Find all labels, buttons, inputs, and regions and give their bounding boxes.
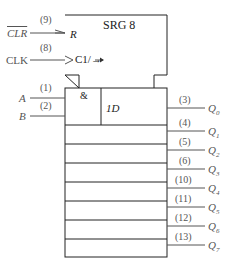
pin-q6: (12)	[175, 212, 192, 223]
output-q4: Q4	[208, 182, 219, 197]
pin-q7: (13)	[175, 231, 192, 242]
pin-a: (1)	[40, 82, 52, 93]
pin-q1: (4)	[179, 117, 191, 128]
output-q7: Q7	[208, 239, 219, 254]
output-q1: Q1	[208, 125, 219, 140]
data-input-label: 1D	[106, 102, 119, 114]
pin-q4: (10)	[175, 174, 192, 185]
pin-q0: (3)	[179, 94, 191, 105]
and-symbol: &	[80, 90, 88, 101]
input-clk: CLK	[6, 54, 28, 66]
reset-label: R	[70, 28, 77, 40]
input-b: B	[19, 110, 26, 122]
output-q0: Q0	[208, 102, 219, 117]
pin-b: (2)	[40, 100, 52, 111]
pin-q3: (6)	[179, 155, 191, 166]
output-q2: Q2	[208, 144, 219, 159]
register-title: SRG 8	[103, 18, 135, 33]
input-clr: CLR	[7, 27, 27, 39]
output-q3: Q3	[208, 163, 219, 178]
output-q5: Q5	[208, 201, 219, 216]
shift-register-diagram	[0, 0, 229, 265]
output-q6: Q6	[208, 220, 219, 235]
pin-clr: (9)	[40, 14, 52, 25]
inversion-triangle	[55, 30, 65, 33]
clock-triangle	[65, 56, 73, 64]
pin-clk: (8)	[40, 42, 52, 53]
clock-label: C1/→	[75, 53, 102, 65]
pin-q2: (5)	[179, 136, 191, 147]
pin-q5: (11)	[175, 193, 191, 204]
input-a: A	[19, 92, 26, 104]
